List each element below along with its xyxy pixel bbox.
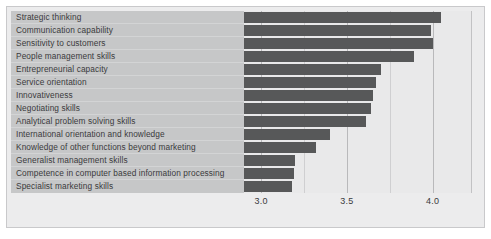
bar-row	[244, 50, 471, 63]
bar-row	[244, 180, 471, 193]
bar-row	[244, 11, 471, 24]
bar-row	[244, 128, 471, 141]
category-label: Strategic thinking	[11, 11, 244, 24]
category-label: Sensitivity to customers	[11, 37, 244, 50]
bar-row	[244, 115, 471, 128]
bar	[244, 116, 366, 127]
bar	[244, 38, 433, 49]
category-label: Entrepreneurial capacity	[11, 63, 244, 76]
category-label: Knowledge of other functions beyond mark…	[11, 141, 244, 154]
x-tick-label: 4.0	[426, 196, 439, 206]
category-label: Service orientation	[11, 76, 244, 89]
bar-row	[244, 102, 471, 115]
x-tick-label: 3.5	[340, 196, 353, 206]
category-label: Negotiating skills	[11, 102, 244, 115]
bar-row	[244, 24, 471, 37]
category-label: Innovativeness	[11, 89, 244, 102]
bar	[244, 64, 381, 75]
bar	[244, 129, 330, 140]
chart-figure: Strategic thinkingCommunication capabili…	[0, 0, 491, 239]
category-label: Generalist management skills	[11, 154, 244, 167]
bar	[244, 181, 292, 192]
bar-row	[244, 154, 471, 167]
category-label: Competence in computer based information…	[11, 167, 244, 180]
bar	[244, 12, 441, 23]
bar-row	[244, 141, 471, 154]
category-label-panel: Strategic thinkingCommunication capabili…	[11, 11, 244, 193]
category-label: Communication capability	[11, 24, 244, 37]
bar-row	[244, 76, 471, 89]
bar-row	[244, 37, 471, 50]
category-label: International orientation and knowledge	[11, 128, 244, 141]
x-axis: 3.03.54.0	[244, 193, 472, 213]
bar	[244, 155, 295, 166]
bar	[244, 25, 431, 36]
x-tick-label: 3.0	[255, 196, 268, 206]
bar	[244, 142, 316, 153]
bar	[244, 90, 373, 101]
bar	[244, 168, 294, 179]
category-label: Specialist marketing skills	[11, 180, 244, 193]
bar	[244, 77, 376, 88]
bar	[244, 51, 414, 62]
category-label: Analytical problem solving skills	[11, 115, 244, 128]
bar-row	[244, 167, 471, 180]
bar	[244, 103, 371, 114]
category-label: People management skills	[11, 50, 244, 63]
bar-row	[244, 63, 471, 76]
plot-area	[244, 11, 472, 193]
bar-row	[244, 89, 471, 102]
